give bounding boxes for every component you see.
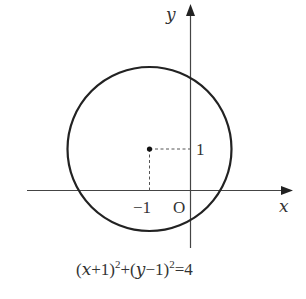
y-tick-label: 1 [196, 140, 205, 159]
center-point [147, 146, 152, 151]
origin-label: O [173, 198, 185, 217]
x-axis [27, 186, 293, 195]
y-axis-arrow-icon [186, 4, 195, 16]
x-axis-label: x [279, 196, 289, 216]
y-axis [186, 4, 195, 248]
circle-diagram: y x O −1 1 (x+1)2+(y−1)2=4 [0, 0, 306, 299]
y-axis-label: y [165, 4, 176, 24]
coordinate-plane: y x O −1 1 (x+1)2+(y−1)2=4 [0, 0, 306, 299]
x-tick-label: −1 [133, 198, 151, 217]
x-axis-arrow-icon [281, 186, 293, 195]
circle-equation: (x+1)2+(y−1)2=4 [76, 258, 193, 279]
